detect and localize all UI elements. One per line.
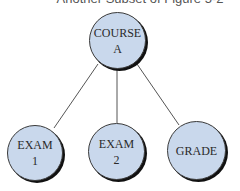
node-label-line: EXAM — [99, 136, 134, 152]
node-label-line: EXAM — [17, 137, 52, 153]
node-grade: GRADE — [167, 121, 226, 180]
node-exam-1: EXAM 1 — [7, 125, 63, 181]
edge-course-a-grade — [137, 64, 179, 125]
node-exam-2: EXAM 2 — [88, 123, 145, 180]
node-label-line: 1 — [32, 153, 38, 169]
node-course-a: COURSE A — [89, 12, 146, 69]
node-label-line: A — [113, 41, 122, 57]
node-label-line: COURSE — [94, 25, 141, 41]
node-label-line: GRADE — [176, 143, 217, 159]
edge-course-a-exam-1 — [54, 64, 98, 128]
node-label-line: 2 — [114, 152, 120, 168]
